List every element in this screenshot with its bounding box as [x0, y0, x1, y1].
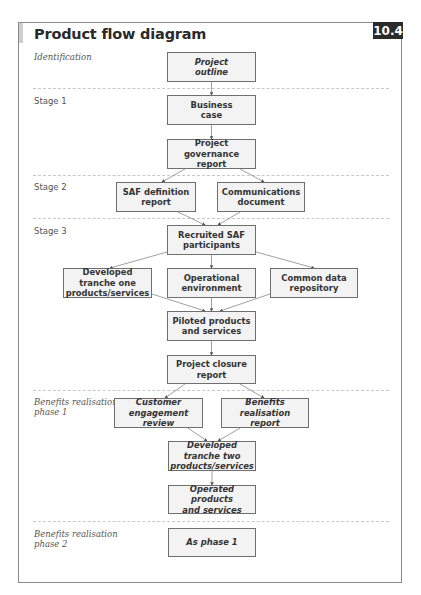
node-label: report [197, 159, 227, 169]
node-business-case: Businesscase [167, 95, 256, 125]
node-label: Common data [281, 273, 346, 283]
node-label: report [141, 197, 171, 207]
node-label: Developed tranche two [184, 440, 241, 461]
node-label: Operational [184, 273, 240, 283]
node-label: participants [183, 240, 240, 250]
node-label: outline [195, 67, 228, 77]
node-label: report [197, 370, 227, 380]
node-label: Project closure [176, 359, 247, 369]
node-developed-tranche-two: Developed tranche twoproducts/services [168, 441, 256, 471]
node-label: Communications [222, 187, 300, 197]
node-label: and services [182, 505, 241, 515]
node-piloted-products: Piloted productsand services [167, 311, 256, 341]
node-label: repository [290, 283, 339, 293]
node-label: report [250, 418, 280, 428]
node-label: Benefits realisation [240, 397, 290, 418]
node-label: Piloted products [172, 316, 250, 326]
node-common-data-repository: Common datarepository [270, 268, 358, 298]
node-label: Developed tranche one [79, 267, 136, 288]
node-operated-products: Operated productsand services [168, 485, 256, 514]
node-label: case [201, 110, 222, 120]
node-saf-definition-report: SAF definitionreport [116, 182, 196, 212]
node-label: Customer engagement [129, 397, 188, 418]
node-project-closure-report: Project closurereport [167, 355, 256, 384]
node-label: environment [181, 283, 241, 293]
node-label: Business [191, 100, 233, 110]
node-label: products/services [170, 461, 254, 471]
node-label: SAF definition [123, 187, 189, 197]
node-label: and services [182, 326, 241, 336]
node-label: Operated products [190, 484, 234, 505]
node-customer-engagement-review: Customer engagementreview [114, 398, 203, 428]
node-recruited-saf-participants: Recruited SAFparticipants [167, 225, 256, 255]
node-communications-document: Communicationsdocument [217, 182, 305, 212]
node-as-phase-1: As phase 1 [168, 528, 256, 557]
node-label: products/services [66, 288, 150, 298]
node-label: Project [195, 57, 228, 67]
node-project-outline: Projectoutline [167, 52, 256, 82]
node-label: document [237, 197, 284, 207]
node-label: Project governance [184, 138, 239, 159]
node-benefits-realisation-report: Benefits realisationreport [221, 398, 309, 428]
node-operational-environment: Operationalenvironment [167, 268, 256, 298]
node-label: Recruited SAF [178, 230, 245, 240]
node-label: As phase 1 [186, 537, 237, 548]
node-label: review [143, 418, 175, 428]
node-project-governance-report: Project governancereport [167, 139, 256, 169]
node-developed-tranche-one: Developed tranche oneproducts/services [63, 268, 152, 298]
